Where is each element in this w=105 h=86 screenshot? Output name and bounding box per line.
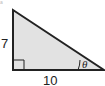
vertical-leg-label: 7 — [1, 36, 8, 51]
right-triangle — [13, 10, 104, 70]
triangle-diagram: a θ 7 10 — [0, 0, 105, 86]
corner-mark: a — [0, 0, 3, 5]
horizontal-leg-label: 10 — [43, 73, 57, 86]
angle-label: θ — [82, 58, 88, 70]
